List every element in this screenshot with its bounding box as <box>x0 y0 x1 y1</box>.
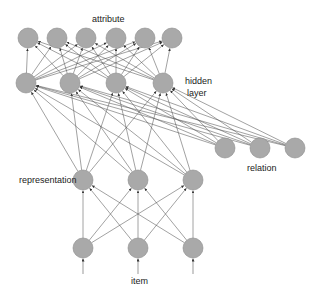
network-nodes <box>16 28 305 258</box>
attribute-node-5 <box>135 28 155 48</box>
attribute-node-3 <box>76 28 96 48</box>
representation-node-3 <box>183 170 203 190</box>
relation-node-2 <box>250 138 270 158</box>
hidden-node-1 <box>16 73 36 93</box>
connection-arrow <box>76 92 132 172</box>
relation-node-3 <box>285 138 305 158</box>
item-node-3 <box>183 238 203 258</box>
connection-arrow <box>80 86 251 144</box>
attribute-node-4 <box>106 28 126 48</box>
connection-arrow <box>36 85 285 145</box>
connection-arrow <box>149 48 159 74</box>
hidden-node-3 <box>106 73 126 93</box>
relation-label: relation <box>247 163 277 173</box>
hidden-node-2 <box>60 73 80 93</box>
connection-arrow <box>140 93 160 170</box>
attribute-label: attribute <box>92 14 125 24</box>
attribute-node-6 <box>162 28 182 48</box>
connection-arrow <box>86 93 112 171</box>
connection-arrow <box>36 86 250 146</box>
relation-node-1 <box>215 138 235 158</box>
attribute-node-2 <box>47 28 67 48</box>
item-node-2 <box>128 238 148 258</box>
attribute-node-1 <box>18 28 38 48</box>
hidden-node-4 <box>153 73 173 93</box>
network-diagram <box>0 0 317 296</box>
representation-node-2 <box>128 170 148 190</box>
representation-label: representation <box>19 175 77 185</box>
hidden-layer-label-line2: layer <box>187 88 207 98</box>
connection-arrow <box>71 93 81 170</box>
connection-arrow <box>32 47 51 75</box>
connection-arrow <box>31 92 78 171</box>
hidden-layer-label-line1: hidden <box>185 76 212 86</box>
connection-arrow <box>26 48 27 73</box>
item-node-1 <box>73 238 93 258</box>
item-label: item <box>131 276 148 286</box>
connection-arrow <box>165 48 170 73</box>
connection-arrow <box>79 42 162 79</box>
connection-arrow <box>95 43 154 78</box>
